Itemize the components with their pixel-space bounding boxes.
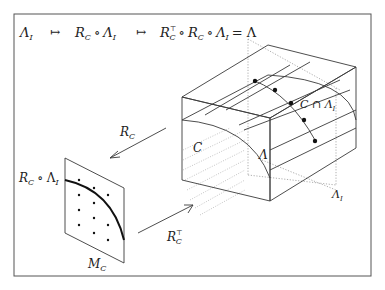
svg-text:RC∘ΛI: RC∘ΛI [74, 25, 117, 42]
svg-text:ΛI: ΛI [19, 25, 33, 42]
plane-mc [65, 158, 124, 263]
svg-text:R⊤C∘RC∘ΛI= Λ: R⊤C∘RC∘ΛI= Λ [159, 25, 257, 42]
region-c-label: C [193, 141, 202, 155]
svg-text:↦: ↦ [136, 25, 146, 39]
transpose-arrow-label: R⊤C [166, 229, 183, 246]
lattice-label: Λ [258, 148, 268, 162]
restriction-arrow-label: RC [119, 125, 135, 141]
lambda-i-label: ΛI [331, 188, 343, 203]
figure-diagram: ΛI ↦ RC∘ΛI ↦ R⊤C∘RC∘ΛI= Λ [0, 0, 385, 290]
intersection-label: C ∩ ΛI [300, 98, 336, 113]
plane-mc-label: MC [87, 257, 106, 273]
lattice-box [182, 39, 356, 215]
mapping-formula: ΛI ↦ RC∘ΛI ↦ R⊤C∘RC∘ΛI= Λ [19, 25, 257, 42]
plane-curve-label: RC∘ ΛI [18, 171, 60, 187]
transpose-arrow [138, 205, 193, 233]
svg-text:↦: ↦ [50, 25, 60, 39]
restriction-arrow [110, 128, 166, 158]
